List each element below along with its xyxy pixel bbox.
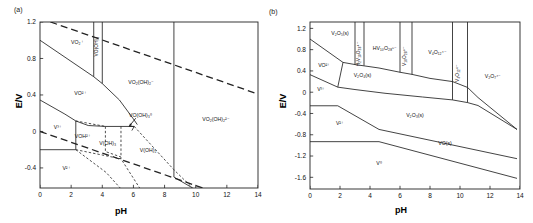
y-tick-label: 1.2 <box>297 25 306 32</box>
species-label-V0: V⁰ <box>376 160 381 166</box>
x-tick-label: 14 <box>254 191 262 198</box>
species-label-HV10O28-5minus: HV₁₀O₂₈⁵⁻ <box>373 45 397 51</box>
dashed-boundary <box>134 126 192 188</box>
solid-boundary <box>379 142 517 179</box>
x-tick-label: 0 <box>308 192 312 199</box>
species-label-V4O12-4minus: V₄O₁₂⁴⁻ <box>428 49 447 55</box>
pourbaix-figure: (a) E/V pH VO₂⁺VO(OH)₃VO²⁺VO₂(OH)₂⁻VO(OH… <box>0 0 533 223</box>
dashed-boundary <box>76 150 120 188</box>
x-tick-label: 6 <box>398 192 402 199</box>
solid-boundary <box>129 126 134 130</box>
x-tick-label: 12 <box>486 192 494 199</box>
species-label-H2V10O28-4minus: H₂V₁₀O₂₈⁴⁻ <box>356 41 361 66</box>
panel-a-plot: VO₂⁺VO(OH)₃VO²⁺VO₂(OH)₂⁻VO(OH)₃⁰VO₂(OH)₂… <box>0 0 266 223</box>
species-label-VO2+: VO₂⁺ <box>71 39 84 45</box>
y-tick-label: 0 <box>302 89 306 96</box>
species-label-V-OH-3: V(OH)₃ <box>99 140 116 146</box>
y-tick-label: -0.8 <box>295 131 307 138</box>
species-label-VO2plus: VO²⁺ <box>318 62 330 68</box>
x-tick-label: 2 <box>69 191 73 198</box>
x-tick-label: 8 <box>428 192 432 199</box>
y-tick-label: -1.2 <box>295 152 307 159</box>
y-tick-label: 1.2 <box>27 18 36 25</box>
solid-boundary <box>40 40 137 124</box>
y-tick-label: 0.8 <box>27 55 36 62</box>
species-label-VOH2+: VOH²⁺ <box>75 133 91 139</box>
panel-b: (b) E/V pH V₂O₅(s)H₂V₁₀O₂₈⁴⁻HV₁₀O₂₈⁵⁻V₁₀… <box>267 0 533 223</box>
species-label-V2O3-s: V₂O₃(s) <box>406 112 424 118</box>
x-tick-label: 10 <box>456 192 464 199</box>
solid-boundary <box>338 62 343 87</box>
species-label-V10O28-6minus: V₁₀O₂₈⁶⁻ <box>402 46 407 66</box>
x-tick-label: 14 <box>516 192 524 199</box>
species-label-VO2-OH-2-minus: VO₂(OH)₂⁻ <box>128 79 154 85</box>
species-label-V4O12-4minus-vert: V₄O₁₂⁴⁻ <box>455 64 460 82</box>
y-tick-label: 0 <box>32 128 36 135</box>
panel-a: (a) E/V pH VO₂⁺VO(OH)₃VO²⁺VO₂(OH)₂⁻VO(OH… <box>0 0 266 223</box>
species-label-VO-OH-3-neutral: VO(OH)₃⁰ <box>129 112 152 118</box>
y-tick-label: 0.4 <box>297 67 306 74</box>
plot-frame <box>310 22 520 189</box>
y-tick-label: 0.4 <box>27 91 36 98</box>
panel-b-plot: V₂O₅(s)H₂V₁₀O₂₈⁴⁻HV₁₀O₂₈⁵⁻V₁₀O₂₈⁶⁻V₄O₁₂⁴… <box>267 0 533 223</box>
species-label-V3plus: V³⁺ <box>317 86 325 92</box>
x-tick-label: 0 <box>38 191 42 198</box>
x-tick-label: 2 <box>338 192 342 199</box>
species-label-V2O7-4minus: V₂O₇⁴⁻ <box>485 73 502 79</box>
y-tick-label: -0.4 <box>25 164 37 171</box>
species-label-V2plus: V²⁺ <box>336 120 344 126</box>
species-label-V3+: V³⁺ <box>54 124 62 130</box>
solid-boundary <box>40 100 134 126</box>
x-tick-label: 4 <box>100 191 104 198</box>
x-tick-label: 6 <box>132 191 136 198</box>
x-tick-label: 8 <box>163 191 167 198</box>
species-label-VO-OH-3: VO(OH)₃ <box>94 37 99 57</box>
species-label-V2O5-s: V₂O₅(s) <box>331 30 349 36</box>
x-tick-label: 4 <box>368 192 372 199</box>
x-tick-label: 12 <box>223 191 231 198</box>
species-label-V2+: V²⁺ <box>62 165 70 171</box>
species-label-V-OH-2: V(OH)₂ <box>140 147 157 153</box>
x-tick-label: 10 <box>192 191 200 198</box>
solid-boundary <box>338 87 517 129</box>
species-label-VO-s: VO(s) <box>438 140 452 146</box>
y-tick-label: -1.6 <box>295 174 307 181</box>
species-label-VO2+-vanadyl: VO²⁺ <box>74 90 86 96</box>
plot-frame <box>40 22 258 188</box>
y-tick-label: -0.4 <box>295 110 307 117</box>
species-label-V2O4-s: V₂O₄(s) <box>354 72 372 78</box>
y-tick-label: 0.8 <box>297 46 306 53</box>
species-label-VO2-OH-2-2minus: VO₂(OH)₂²⁻ <box>202 116 230 122</box>
